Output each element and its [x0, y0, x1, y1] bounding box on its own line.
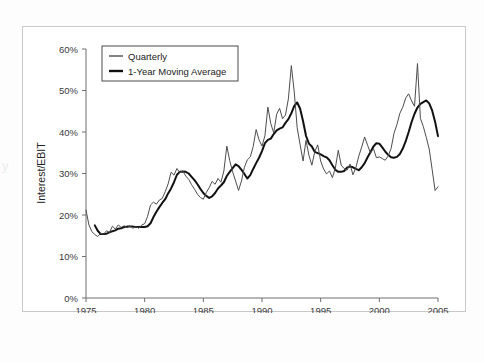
y-tick-label: 50% — [59, 85, 79, 96]
x-tick-label: 2000 — [369, 305, 390, 313]
x-tick-label: 2005 — [427, 305, 448, 313]
y-axis-title: Interest/EBIT — [35, 142, 47, 204]
x-tick-label: 1985 — [193, 305, 214, 313]
page-bleed-left-glyph: y — [2, 158, 9, 173]
x-tick-label: 1980 — [134, 305, 155, 313]
y-tick-label: 0% — [64, 293, 78, 304]
y-tick-label: 60% — [59, 44, 79, 55]
y-axis-tick-labels: 0%10%20%30%40%50%60% — [59, 44, 79, 304]
figure-frame: 0%10%20%30%40%50%60% 1975198019851990199… — [22, 26, 466, 312]
chart-plot-area: 0%10%20%30%40%50%60% 1975198019851990199… — [23, 27, 467, 313]
y-tick-label: 40% — [59, 127, 79, 138]
chart-legend: Quarterly 1-Year Moving Average — [102, 46, 238, 81]
legend-label-moving-average: 1-Year Moving Average — [128, 66, 226, 77]
page-canvas: y 0%10%20%30%40%50%60% 19751980198519901… — [0, 0, 484, 362]
x-axis-tick-labels: 1975198019851990199520002005 — [75, 305, 448, 313]
y-tick-label: 30% — [59, 168, 79, 179]
x-tick-label: 1995 — [310, 305, 331, 313]
x-axis-ticks — [86, 298, 438, 302]
y-tick-label: 20% — [59, 210, 79, 221]
y-tick-label: 10% — [59, 251, 79, 262]
x-tick-label: 1975 — [75, 305, 96, 313]
legend-label-quarterly: Quarterly — [128, 51, 167, 62]
y-axis-ticks — [82, 49, 86, 298]
x-tick-label: 1990 — [251, 305, 272, 313]
